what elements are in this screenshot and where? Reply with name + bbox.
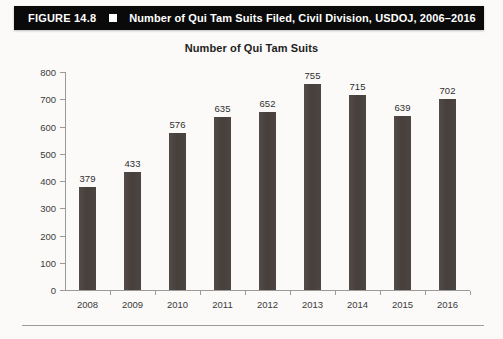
chart-container: Number of Qui Tam Suits 0100200300400500… bbox=[0, 30, 503, 315]
x-axis-tick bbox=[110, 291, 111, 295]
x-axis-label-2009: 2009 bbox=[110, 299, 156, 310]
x-axis-label-2014: 2014 bbox=[335, 299, 381, 310]
bar-2012 bbox=[259, 112, 276, 290]
bar-value-label-2012: 652 bbox=[248, 98, 288, 109]
y-axis-tick-label: 300 bbox=[16, 203, 56, 214]
y-axis-tick-label: 200 bbox=[16, 230, 56, 241]
x-axis-tick bbox=[155, 291, 156, 295]
bar-value-label-2008: 379 bbox=[68, 173, 108, 184]
x-axis-tick bbox=[470, 291, 471, 295]
bottom-divider-rule bbox=[22, 325, 484, 326]
x-axis-tick bbox=[335, 291, 336, 295]
y-axis-tick-label: 700 bbox=[16, 94, 56, 105]
y-axis-tick bbox=[60, 263, 65, 264]
x-axis-label-2008: 2008 bbox=[65, 299, 111, 310]
y-axis-tick bbox=[60, 208, 65, 209]
y-axis-tick bbox=[60, 99, 65, 100]
figure-number: FIGURE 14.8 bbox=[28, 12, 96, 24]
x-axis-tick bbox=[200, 291, 201, 295]
bar-2011 bbox=[214, 117, 231, 290]
x-axis-label-2013: 2013 bbox=[290, 299, 336, 310]
y-axis-tick-label: 0 bbox=[16, 285, 56, 296]
y-axis-tick-label: 800 bbox=[16, 67, 56, 78]
bar-2016 bbox=[439, 99, 456, 290]
bar-value-label-2011: 635 bbox=[203, 103, 243, 114]
y-axis-tick bbox=[60, 236, 65, 237]
bar-value-label-2016: 702 bbox=[428, 85, 468, 96]
x-axis-label-2012: 2012 bbox=[245, 299, 291, 310]
bar-value-label-2014: 715 bbox=[338, 81, 378, 92]
x-axis-tick bbox=[290, 291, 291, 295]
y-axis-line bbox=[65, 72, 66, 291]
y-axis-tick-label: 600 bbox=[16, 121, 56, 132]
y-axis-tick-label: 500 bbox=[16, 148, 56, 159]
bar-2015 bbox=[394, 116, 411, 290]
plot-area: 0100200300400500600700800379200843320095… bbox=[0, 30, 503, 315]
bar-value-label-2013: 755 bbox=[293, 70, 333, 81]
bar-2013 bbox=[304, 84, 321, 290]
white-square-icon bbox=[109, 14, 117, 22]
y-axis-tick bbox=[60, 181, 65, 182]
figure-caption-bar: FIGURE 14.8 Number of Qui Tam Suits File… bbox=[14, 6, 484, 30]
figure-caption-text: Number of Qui Tam Suits Filed, Civil Div… bbox=[129, 12, 476, 24]
y-axis-tick bbox=[60, 154, 65, 155]
bar-2010 bbox=[169, 133, 186, 290]
x-axis-label-2010: 2010 bbox=[155, 299, 201, 310]
bar-2014 bbox=[349, 95, 366, 290]
y-axis-tick bbox=[60, 72, 65, 73]
x-axis-line bbox=[65, 290, 470, 291]
bar-value-label-2010: 576 bbox=[158, 119, 198, 130]
x-axis-tick bbox=[425, 291, 426, 295]
y-axis-tick-label: 400 bbox=[16, 176, 56, 187]
x-axis-label-2016: 2016 bbox=[425, 299, 471, 310]
x-axis-label-2011: 2011 bbox=[200, 299, 246, 310]
y-axis-tick bbox=[60, 127, 65, 128]
x-axis-tick bbox=[380, 291, 381, 295]
x-axis-label-2015: 2015 bbox=[380, 299, 426, 310]
y-axis-tick bbox=[60, 290, 65, 291]
bar-2008 bbox=[79, 187, 96, 290]
x-axis-tick bbox=[245, 291, 246, 295]
y-axis-tick-label: 100 bbox=[16, 257, 56, 268]
bar-value-label-2009: 433 bbox=[113, 158, 153, 169]
bar-value-label-2015: 639 bbox=[383, 102, 423, 113]
bar-2009 bbox=[124, 172, 141, 290]
